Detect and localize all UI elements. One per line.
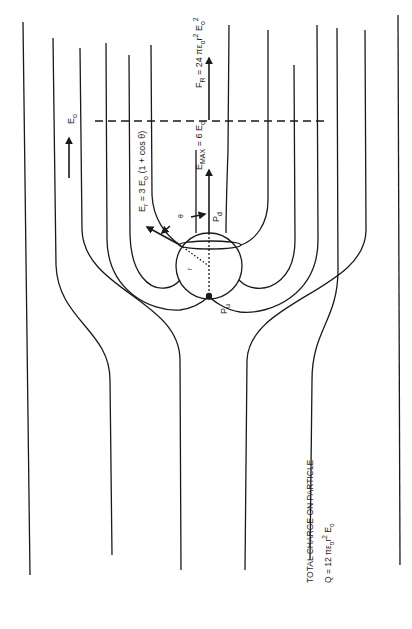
field-line-diagram: Eo Er = 3 Eo (1 + cos θ) EMAX = 6 Eo FR … (0, 0, 412, 629)
field-line-term-r1 (209, 25, 318, 312)
downstream-point-label: Pd (211, 212, 223, 222)
sphere-equator (179, 241, 241, 249)
force-label: FR = 24 πεor2 Eo2 (192, 17, 206, 88)
theta-label: θ (177, 214, 184, 218)
applied-field-label: Eo (66, 114, 78, 124)
pd-arrow (191, 214, 205, 217)
field-line-left-1 (53, 38, 112, 555)
field-line-outer-left (23, 22, 30, 575)
field-line-term-r2 (239, 65, 295, 288)
field-line-outer-right (398, 15, 400, 565)
charge-title: TOTAL CHARGE ON PARTICLE (305, 459, 315, 583)
field-line-term-top-r (241, 30, 268, 245)
field-line-term-top-cr (226, 25, 229, 233)
radial-field-label: Er = 3 Eo (1 + cos θ) (137, 131, 149, 212)
radius-label: r (186, 267, 193, 270)
field-line-term-top-l (151, 45, 180, 245)
charge-expression: Q = 12 πεor2 Eo (321, 523, 335, 583)
particle-sphere (176, 233, 242, 299)
upstream-point-dot (207, 294, 212, 299)
